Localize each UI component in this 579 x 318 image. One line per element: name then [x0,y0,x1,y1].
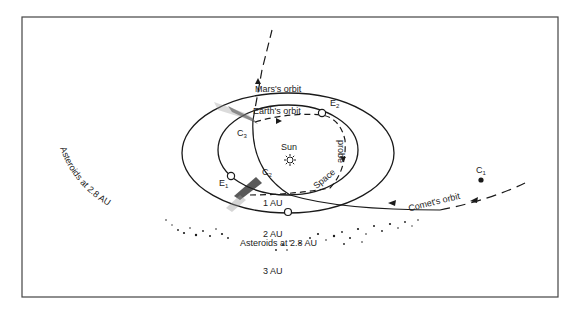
asteroids-curved-path-text: Asteroids at 2.8 AU [58,145,112,207]
space-probe-path [250,114,345,195]
comet-c1-point [478,177,483,182]
earth-e2-marker [318,109,325,116]
probe-arrow [276,118,282,124]
space-probe-label-probe: probe [336,140,346,163]
au3-label: 3 AU [263,266,283,276]
asteroids-curved-label: Asteroids at 2.8 AU [58,145,112,207]
e1-label: E1 [219,178,229,189]
asteroids-belt-label: Asteroids at 2.8 AU [240,238,317,248]
sun-icon [284,154,296,166]
c3-label: C3 [237,128,248,139]
comet-orbit-inner [253,120,440,210]
comet-tail-c2 [234,177,262,200]
au1-marker [285,209,292,216]
mars-orbit-label: Mars's orbit [255,84,302,94]
earth-orbit-label: Earth's orbit [253,106,301,116]
space-probe-label-space: Space [311,167,337,191]
au1-label: 1 AU [263,198,283,208]
earth-e1-marker [227,172,234,179]
c1-label: C1 [476,165,487,176]
comet-arrow [388,200,396,206]
sun-label: Sun [281,142,297,152]
c2-label: C2 [262,167,273,178]
solar-system-diagram: Mars's orbit Earth's orbit Sun Space pro… [0,0,579,318]
